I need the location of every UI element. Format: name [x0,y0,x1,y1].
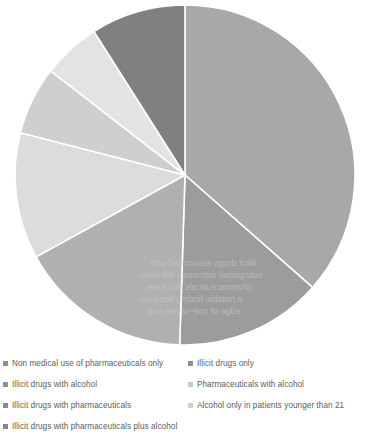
legend-item-label: Pharmaceuticals with alcohol [197,374,304,395]
legend-item-label: Illicit drugs with pharmaceuticals [12,395,131,416]
legend-item-label: Illicit drugs with alcohol [12,374,97,395]
legend-swatch-icon [3,424,8,429]
legend-item[interactable]: Non medical use of pharmaceuticals only [3,353,189,374]
legend-swatch-icon [188,382,193,387]
legend-item-label: Non medical use of pharmaceuticals only [12,353,163,374]
legend-swatch-icon [3,403,8,408]
legend-item-label: Illicit drugs only [197,353,254,374]
legend-item[interactable]: Illicit drugs with alcohol [3,374,189,395]
legend-swatch-icon [3,361,8,366]
legend-item[interactable]: Illicit drugs with pharmaceuticals [3,395,189,416]
legend-item[interactable]: Illicit drugs only [188,353,369,374]
legend-swatch-icon [3,382,8,387]
legend-column-left: Non medical use of pharmaceuticals onlyI… [3,353,189,435]
legend-item[interactable]: Illicit drugs with pharmaceuticals plus … [3,416,189,435]
pie-chart-area: Illicit drugs associated with suboptimal… [0,0,369,348]
legend-item-label: Alcohol only in patients younger than 21 [197,395,344,416]
pie-chart-svg [0,0,369,348]
pie-slice-group [15,5,355,345]
legend-column-right: Illicit drugs onlyPharmaceuticals with a… [188,353,369,416]
legend-swatch-icon [188,361,193,366]
legend-item-label: Illicit drugs with pharmaceuticals plus … [12,416,177,435]
legend-item[interactable]: Pharmaceuticals with alcohol [188,374,369,395]
legend-swatch-icon [188,403,193,408]
legend-item[interactable]: Alcohol only in patients younger than 21 [188,395,369,416]
chart-legend: Non medical use of pharmaceuticals onlyI… [0,349,369,425]
